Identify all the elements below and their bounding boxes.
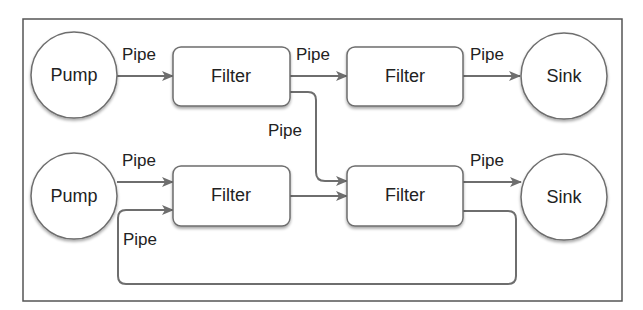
edge-label-pump1-filter1: Pipe — [122, 45, 156, 64]
node-sink2-label: Sink — [546, 187, 582, 207]
node-filter3: Filter — [173, 166, 290, 226]
node-sink1-label: Sink — [546, 66, 582, 86]
node-filter4-label: Filter — [385, 185, 425, 205]
node-filter4: Filter — [347, 166, 463, 226]
edge-label-pump2-filter3: Pipe — [122, 151, 156, 170]
node-filter1: Filter — [173, 47, 290, 106]
edge-label-loop: Pipe — [123, 230, 157, 249]
node-filter2: Filter — [347, 47, 463, 106]
edge-label-filter1-filter2: Pipe — [296, 45, 330, 64]
node-filter2-label: Filter — [385, 66, 425, 86]
node-sink2: Sink — [521, 154, 607, 240]
node-filter3-label: Filter — [211, 185, 251, 205]
edge-label-filter2-sink1: Pipe — [470, 45, 504, 64]
edge-label-filter1-filter4: Pipe — [268, 121, 302, 140]
node-pump1-label: Pump — [50, 65, 97, 85]
node-pump2: Pump — [31, 153, 117, 239]
pipes-and-filters-diagram: Pipe Pipe Pipe Pipe Pipe Pipe Pipe Pump … — [0, 0, 643, 310]
node-pump2-label: Pump — [50, 186, 97, 206]
node-filter1-label: Filter — [211, 66, 251, 86]
edge-label-filter4-sink2: Pipe — [470, 151, 504, 170]
node-pump1: Pump — [31, 32, 117, 118]
node-sink1: Sink — [521, 33, 607, 119]
